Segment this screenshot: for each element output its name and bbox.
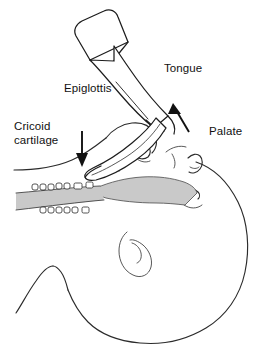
cricoid-pressure-arrow: [76, 131, 88, 167]
ear-inner: [132, 243, 141, 263]
tongue-mass: [96, 177, 197, 205]
label-cricoid-line1: Cricoid: [14, 120, 51, 132]
blade-flange: [85, 118, 166, 180]
label-palate: Palate: [209, 125, 242, 139]
label-cricoid-cartilage: Cricoidcartilage: [14, 120, 58, 147]
ear: [119, 232, 152, 277]
uvula: [172, 154, 175, 168]
nostril: [190, 167, 199, 169]
label-cricoid-line2: cartilage: [14, 134, 58, 146]
lower-teeth: [40, 207, 89, 213]
blade-hook: [168, 116, 175, 134]
figure-canvas: [0, 0, 258, 355]
laryngoscopy-figure: Tongue Epiglottis Cricoidcartilage Palat…: [0, 0, 258, 355]
neck-outline: [16, 266, 53, 313]
palate-arch: [166, 146, 186, 152]
label-tongue: Tongue: [164, 62, 202, 76]
tongue-mass-group: [16, 177, 197, 210]
chin-jaw-curve: [53, 266, 68, 290]
mouth-line: [184, 205, 202, 208]
lift-arrow: [168, 103, 189, 132]
oral-floor-wedge: [16, 186, 104, 210]
ear-group: [119, 232, 152, 277]
label-epiglottis: Epiglottis: [64, 82, 112, 96]
